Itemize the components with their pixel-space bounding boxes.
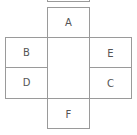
face-d: D	[5, 67, 48, 99]
face-center	[47, 37, 90, 99]
face-f: F	[47, 98, 90, 129]
face-c-label: C	[90, 78, 131, 90]
face-f-label: F	[48, 109, 89, 121]
face-d-label: D	[6, 77, 47, 89]
face-a: A	[47, 7, 90, 38]
face-e: E	[89, 37, 132, 68]
face-top-partial	[47, 0, 90, 2]
face-b: B	[5, 37, 48, 68]
face-e-label: E	[90, 48, 131, 60]
face-c: C	[89, 67, 132, 99]
face-b-label: B	[6, 47, 47, 59]
face-a-label: A	[48, 17, 89, 29]
